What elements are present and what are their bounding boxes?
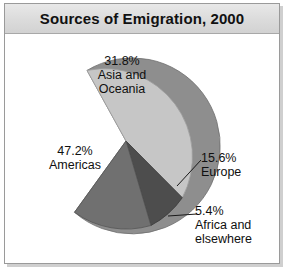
page-title: Sources of Emigration, 2000 <box>5 4 279 34</box>
slice-label-asia-and-oceania: 31.8% Asia and Oceania <box>67 54 177 96</box>
pie-plot-area: 31.8% Asia and Oceania 47.2% Americas 15… <box>5 34 279 263</box>
slice-label-europe: 15.6% Europe <box>201 151 277 179</box>
slice-label-americas: 47.2% Americas <box>23 144 127 172</box>
chart-figure: Sources of Emigration, 2000 31.8% Asia a… <box>4 3 280 264</box>
slice-label-africa-and-elsewhere: 5.4% Africa and elsewhere <box>195 204 279 246</box>
